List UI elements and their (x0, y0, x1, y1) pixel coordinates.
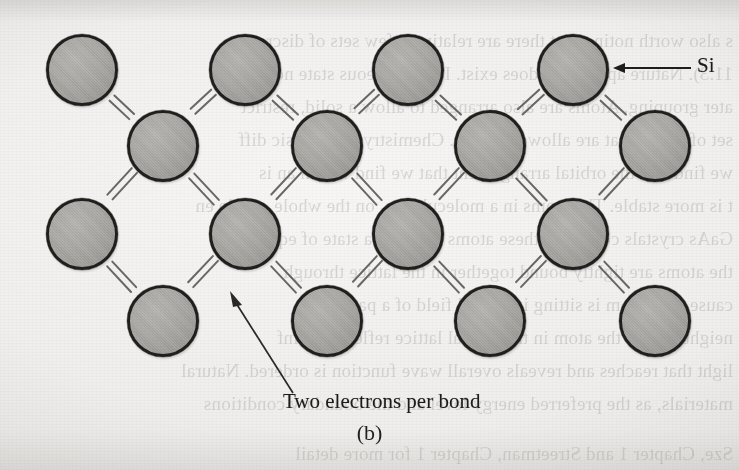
bond-electron-line (604, 94, 627, 116)
silicon-atom (537, 198, 609, 270)
bond-electron-line (439, 94, 462, 116)
covalent-bond (275, 260, 301, 288)
covalent-bond (438, 172, 465, 201)
silicon-atom (127, 285, 199, 357)
si-arrow-left-icon (613, 63, 691, 74)
silicon-atom (291, 110, 363, 182)
covalent-bond (357, 172, 383, 200)
silicon-atom (127, 110, 199, 182)
covalent-bond (112, 172, 138, 200)
silicon-atom (537, 34, 609, 106)
bond-electron-line (276, 94, 299, 116)
silicon-atom (46, 34, 118, 106)
covalent-bond (520, 260, 547, 288)
silicon-atom (619, 110, 691, 182)
silicon-atom (291, 285, 363, 357)
silicon-atom (209, 198, 281, 270)
figure-page: s also worth noting that there are relat… (0, 0, 739, 470)
bond-electron-line (522, 93, 546, 115)
silicon-atom (372, 34, 444, 106)
covalent-bond (605, 94, 628, 115)
covalent-bond (275, 172, 302, 201)
two-electrons-per-bond-label: Two electrons per bond (283, 389, 480, 414)
covalent-bond (114, 94, 136, 115)
panel-caption: (b) (0, 420, 739, 446)
covalent-bond (603, 172, 630, 201)
silicon-atom (209, 34, 281, 106)
covalent-bond (359, 94, 381, 115)
arrow-shaft (623, 67, 691, 69)
silicon-atom (619, 285, 691, 357)
si-label: Si (697, 53, 715, 78)
bond-leader-arrow-icon (226, 289, 296, 395)
covalent-bond (193, 172, 220, 201)
covalent-bond (522, 94, 545, 115)
bond-electron-line (358, 93, 381, 114)
silicon-atom (46, 198, 118, 270)
covalent-bond (193, 260, 219, 288)
silicon-atom (454, 110, 526, 182)
covalent-bond (277, 94, 300, 115)
covalent-bond (603, 260, 629, 288)
covalent-bond (357, 260, 383, 288)
bond-electron-line (194, 93, 217, 115)
covalent-bond (440, 94, 463, 115)
silicon-atom (454, 285, 526, 357)
silicon-atom (372, 198, 444, 270)
covalent-bond (438, 260, 464, 288)
covalent-bond (112, 260, 138, 288)
covalent-bond (520, 172, 547, 201)
covalent-bond (195, 94, 218, 115)
